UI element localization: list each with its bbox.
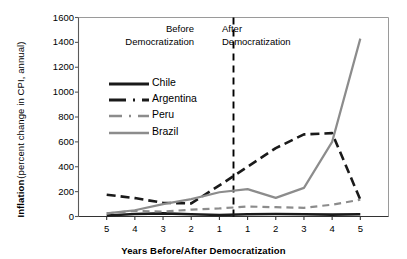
annotation-after-line2: Democratization [222,35,291,48]
x-tick-label: 3 [153,224,173,234]
legend-swatch-icon [108,125,150,137]
legend-item-brazil[interactable]: Brazil [108,125,197,137]
annotation-before-line2: Democratization [125,35,194,48]
x-axis-ticks: 5432112345 [0,0,407,259]
annotation-before-line1: Before [125,22,194,35]
annotation-after-line1: After [222,22,291,35]
x-tick-label: 4 [125,224,145,234]
x-tick-label: 5 [97,224,117,234]
legend-label: Chile [152,76,176,88]
x-axis-title: Years Before/After Democratization [0,245,407,256]
legend-swatch-icon [108,92,150,104]
chart-legend: ChileArgentinaPeruBrazil [108,76,197,137]
x-tick-label: 3 [294,224,314,234]
legend-swatch-icon [108,76,150,88]
legend-item-chile[interactable]: Chile [108,76,197,88]
x-tick-label: 4 [322,224,342,234]
legend-label: Peru [152,108,174,120]
x-tick-label: 2 [181,224,201,234]
legend-item-peru[interactable]: Peru [108,108,197,120]
x-tick-label: 2 [266,224,286,234]
annotation-after: After Democratization [222,22,291,48]
legend-label: Argentina [152,92,197,104]
x-tick-label: 1 [209,224,229,234]
chart-figure: 16001400120010008006004002000 5432112345… [0,0,407,259]
legend-label: Brazil [152,125,178,137]
annotation-before: Before Democratization [125,22,194,48]
legend-swatch-icon [108,108,150,120]
x-tick-label: 5 [350,224,370,234]
legend-item-argentina[interactable]: Argentina [108,92,197,104]
x-tick-label: 1 [238,224,258,234]
